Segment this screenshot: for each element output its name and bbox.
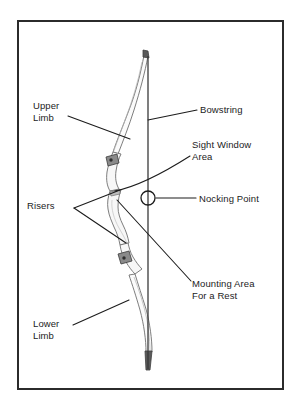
- leader-upper-limb: [68, 116, 130, 139]
- leader-lower-limb: [73, 300, 129, 325]
- label-sight-window-area: Sight Window Area: [192, 139, 251, 162]
- lower-limb-bolt: [122, 256, 125, 259]
- upper-limb-bolt: [109, 158, 112, 161]
- label-lower-limb: Lower Limb: [33, 318, 59, 341]
- label-bowstring: Bowstring: [200, 104, 243, 116]
- label-mounting-area-for-a-rest: Mounting Area For a Rest: [192, 278, 255, 301]
- label-upper-limb: Upper Limb: [33, 100, 59, 123]
- center-riser-grip: [108, 190, 129, 245]
- bow-parts-diagram: Upper Limb Risers Lower Limb Bowstring S…: [0, 0, 302, 409]
- label-nocking-point: Nocking Point: [199, 193, 259, 205]
- leader-sight-window: [115, 156, 190, 191]
- callout-leaders: [68, 110, 197, 325]
- bow-illustration: [106, 50, 152, 370]
- label-risers: Risers: [27, 200, 55, 212]
- leader-bowstring: [148, 110, 197, 120]
